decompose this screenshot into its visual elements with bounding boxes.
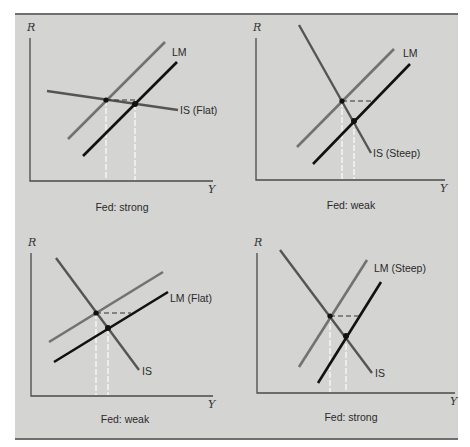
is-label: IS (Steep) bbox=[373, 147, 420, 159]
equilibrium-point-original bbox=[93, 310, 98, 315]
x-axis-label: Y bbox=[440, 182, 449, 195]
panel-top-left: RYLMIS (Flat)Fed: strong bbox=[26, 21, 217, 213]
x-axis-label: Y bbox=[208, 398, 217, 411]
equilibrium-point-shifted bbox=[105, 325, 111, 331]
panel-bottom-left: RYLM (Flat)ISFed: weak bbox=[27, 236, 217, 425]
is-label: IS bbox=[142, 365, 152, 377]
y-axis-label: R bbox=[252, 21, 261, 34]
axes bbox=[31, 253, 213, 396]
is-curve bbox=[280, 250, 372, 373]
is-lm-figure: RYLMIS (Flat)Fed: strong RYLMIS (Steep)F… bbox=[0, 0, 470, 447]
panel-caption: Fed: weak bbox=[327, 199, 376, 211]
y-axis-label: R bbox=[27, 236, 36, 249]
is-label: IS bbox=[375, 367, 385, 379]
equilibrium-point-shifted bbox=[351, 118, 357, 124]
lm-curve-original bbox=[68, 42, 165, 139]
panel-caption: Fed: weak bbox=[101, 413, 150, 425]
panel-bottom-right: RYLM (Steep)ISFed: strong bbox=[253, 236, 459, 423]
panel-caption: Fed: strong bbox=[324, 411, 377, 423]
equilibrium-point-original bbox=[103, 97, 108, 102]
x-axis-label: Y bbox=[450, 395, 459, 408]
equilibrium-point-shifted bbox=[343, 333, 349, 339]
lm-label: LM bbox=[403, 47, 418, 59]
equilibrium-point-original bbox=[339, 98, 344, 103]
equilibrium-point-original bbox=[327, 313, 332, 318]
lm-label: LM (Flat) bbox=[170, 292, 212, 304]
panel-top-right: RYLMIS (Steep)Fed: weak bbox=[252, 21, 449, 211]
is-label: IS (Flat) bbox=[180, 104, 217, 116]
panel-caption: Fed: strong bbox=[95, 201, 148, 213]
y-axis-label: R bbox=[26, 21, 35, 34]
equilibrium-point-shifted bbox=[132, 101, 138, 107]
x-axis-label: Y bbox=[208, 183, 217, 196]
lm-label: LM bbox=[172, 46, 187, 58]
lm-label: LM (Steep) bbox=[374, 262, 426, 274]
lm-curve-shifted bbox=[318, 282, 381, 383]
y-axis-label: R bbox=[253, 236, 262, 249]
